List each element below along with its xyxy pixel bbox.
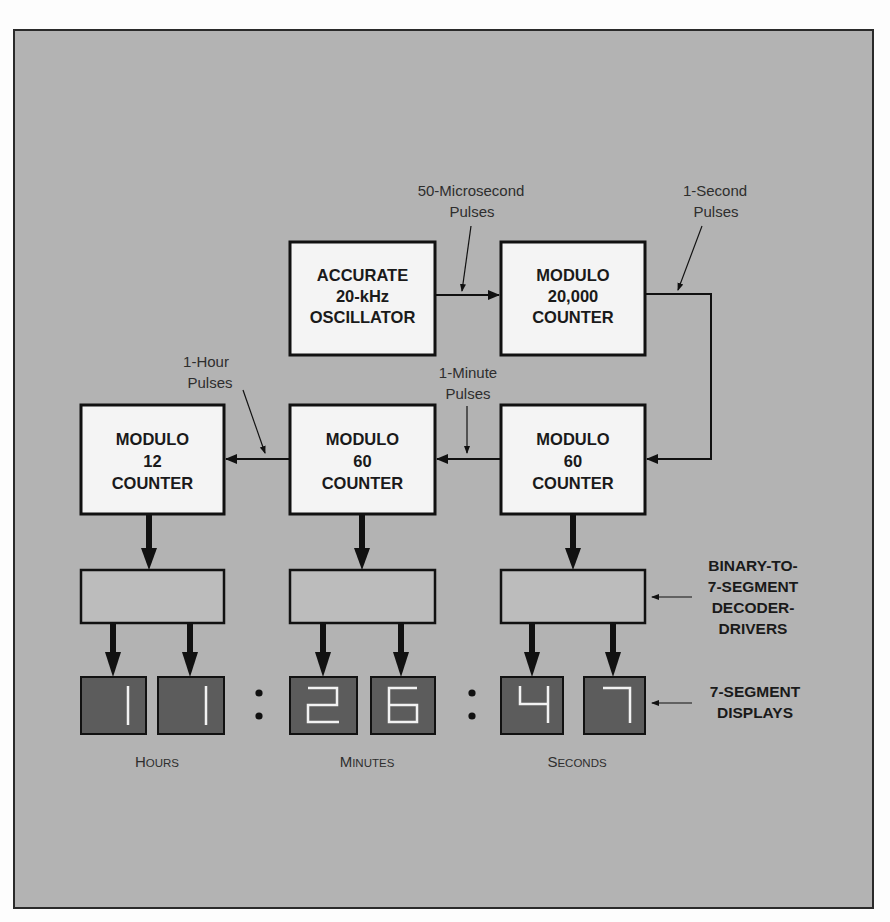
svg-text:Pulses: Pulses xyxy=(449,203,494,220)
svg-text:MODULO: MODULO xyxy=(116,430,189,448)
digital-clock-block-diagram: ACCURATE 20-kHz OSCILLATOR MODULO 20,000… xyxy=(0,0,890,922)
svg-text:DRIVERS: DRIVERS xyxy=(719,620,788,637)
svg-text:BINARY-TO-: BINARY-TO- xyxy=(708,557,798,574)
display-minutes-tens xyxy=(290,677,357,734)
display-seconds-tens xyxy=(501,677,563,734)
colon-dot-2 xyxy=(255,712,262,719)
colon-dot-1 xyxy=(255,689,262,696)
hours-decoder-driver xyxy=(81,570,224,623)
svg-text:COUNTER: COUNTER xyxy=(112,474,194,492)
display-hours-ones xyxy=(158,677,224,734)
oscillator-block: ACCURATE 20-kHz OSCILLATOR xyxy=(290,242,435,355)
mod20000-line-3: COUNTER xyxy=(532,308,614,326)
svg-text:COUNTER: COUNTER xyxy=(322,474,404,492)
svg-text:MODULO: MODULO xyxy=(326,430,399,448)
svg-text:7-SEGMENT: 7-SEGMENT xyxy=(708,578,799,595)
mod20000-to-seconds-connector xyxy=(645,294,711,459)
svg-text:DECODER-: DECODER- xyxy=(712,599,795,616)
svg-text:1-Minute: 1-Minute xyxy=(439,364,497,381)
modulo-60-minutes-counter-block: MODULO 60 COUNTER xyxy=(290,405,435,514)
svg-text:Pulses: Pulses xyxy=(187,374,232,391)
svg-text:Pulses: Pulses xyxy=(693,203,738,220)
decoder-to-display-arrows xyxy=(105,623,621,677)
svg-text:60: 60 xyxy=(564,452,582,470)
caption-seconds: SECONDS xyxy=(547,753,607,770)
caption-hours: HOURS xyxy=(135,753,179,770)
svg-text:7-SEGMENT: 7-SEGMENT xyxy=(710,683,801,700)
display-hours-tens xyxy=(81,677,146,734)
svg-text:COUNTER: COUNTER xyxy=(532,474,614,492)
seconds-decoder-driver xyxy=(501,570,645,623)
modulo-60-seconds-counter-block: MODULO 60 COUNTER xyxy=(501,405,645,514)
mod20000-line-1: MODULO xyxy=(536,266,609,284)
mod20000-line-2: 20,000 xyxy=(548,287,598,305)
seven-segment-displays xyxy=(81,677,645,734)
oscillator-line-3: OSCILLATOR xyxy=(310,308,416,326)
svg-text:12: 12 xyxy=(143,452,161,470)
display-minutes-ones xyxy=(371,677,435,734)
colon-dot-3 xyxy=(468,689,475,696)
svg-text:MODULO: MODULO xyxy=(536,430,609,448)
modulo-20000-counter-block: MODULO 20,000 COUNTER xyxy=(501,242,645,355)
colon-dot-4 xyxy=(468,712,475,719)
svg-text:DISPLAYS: DISPLAYS xyxy=(717,704,793,721)
svg-text:50-Microsecond: 50-Microsecond xyxy=(418,182,525,199)
oscillator-line-2: 20-kHz xyxy=(336,287,389,305)
caption-minutes: MINUTES xyxy=(340,753,395,770)
label-1-second-pulses: 1-Second Pulses xyxy=(678,182,747,290)
svg-text:Pulses: Pulses xyxy=(445,385,490,402)
svg-text:1-Second: 1-Second xyxy=(683,182,747,199)
label-decoder-drivers: BINARY-TO- 7-SEGMENT DECODER- DRIVERS xyxy=(652,557,799,637)
display-seconds-ones xyxy=(584,677,645,734)
oscillator-line-1: ACCURATE xyxy=(317,266,408,284)
label-seven-segment-displays: 7-SEGMENT DISPLAYS xyxy=(652,683,801,721)
minutes-decoder-driver xyxy=(290,570,435,623)
label-1-minute-pulses: 1-Minute Pulses xyxy=(439,364,497,453)
counter-to-decoder-arrows xyxy=(141,514,581,570)
modulo-12-counter-block: MODULO 12 COUNTER xyxy=(81,405,224,514)
svg-text:60: 60 xyxy=(353,452,371,470)
svg-text:1-Hour: 1-Hour xyxy=(183,353,229,370)
